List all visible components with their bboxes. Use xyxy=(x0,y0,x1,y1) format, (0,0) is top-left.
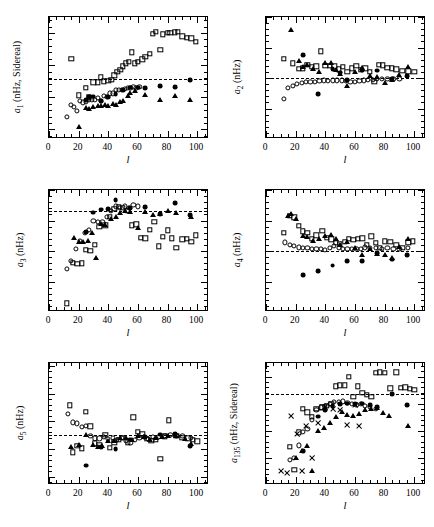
panel-a13s-point-cross xyxy=(330,406,336,412)
panel-a1-point-open-circle xyxy=(64,115,69,120)
panel-a2-point-filled-triangle xyxy=(316,69,322,74)
panel-a2-point-filled-triangle xyxy=(344,83,350,88)
panel-a2-y-axis-subscript: 2 xyxy=(236,86,245,90)
panel-a2-point-filled-triangle xyxy=(352,69,358,74)
panel-a13s-point-cross xyxy=(322,404,328,410)
panel-a3-point-open-square xyxy=(169,235,174,240)
panel-a13s-point-open-square xyxy=(355,384,360,389)
panel-a1-xtick-label: 0 xyxy=(46,142,51,152)
panel-a5-xtick-label: 80 xyxy=(162,488,172,498)
panel-a13s-point-cross xyxy=(352,402,358,408)
panel-a5-point-open-circle xyxy=(66,411,71,416)
panel-a3-point-open-square xyxy=(79,260,84,265)
panel-a13s-y-axis-symbol: a xyxy=(228,458,239,463)
panel-a4-point-filled-circle xyxy=(301,272,306,277)
panel-a2-point-filled-circle xyxy=(375,68,380,73)
panel-a13s-point-cross xyxy=(337,407,343,413)
panel-a2-y-axis-unit: (nHz) xyxy=(231,60,242,83)
panel-a3-y-axis-title: a3 (nHz) xyxy=(14,189,28,311)
panel-a2-point-filled-circle xyxy=(301,52,306,57)
panel-a13s-y-axis-title: a135 (nHz, Sidereal) xyxy=(228,362,242,484)
panel-a5-x-axis-title: l xyxy=(127,500,130,511)
panel-a2-point-filled-triangle xyxy=(382,80,388,85)
panel-a13s-point-filled-triangle xyxy=(299,448,305,453)
panel-a13s-point-cross xyxy=(309,455,315,461)
panel-a4-x-axis-title: l xyxy=(344,327,347,338)
panel-a3-x-axis-title: l xyxy=(127,327,130,338)
panel-a13s-point-filled-triangle xyxy=(386,413,392,418)
panel-a13s-point-filled-triangle xyxy=(374,405,380,410)
panel-a13s-x-axis-title: l xyxy=(344,500,347,511)
panel-a4-point-filled-triangle xyxy=(374,251,380,256)
panel-a2-y-axis-symbol: a xyxy=(231,89,242,94)
panel-a4-point-open-square xyxy=(360,235,365,240)
panel-a3-xtick-label: 0 xyxy=(46,315,51,325)
panel-a4-xtick-label: 60 xyxy=(349,315,359,325)
panel-a1-point-open-square xyxy=(153,29,158,34)
panel-a13s-point-open-square xyxy=(287,444,292,449)
panel-a1-point-open-square xyxy=(126,59,131,64)
panel-a3-xtick-label: 20 xyxy=(73,315,83,325)
panel-a3-point-open-square xyxy=(165,228,170,233)
panel-a13s-point-filled-triangle xyxy=(327,420,333,425)
panel-a13s-point-cross xyxy=(299,468,305,474)
panel-a1-point-open-circle xyxy=(75,108,80,113)
panel-a3-point-filled-triangle xyxy=(102,222,108,227)
panel-a3-point-filled-triangle xyxy=(150,212,156,217)
panel-a3-plot-area xyxy=(48,189,208,311)
panel-a3-point-filled-triangle xyxy=(142,209,148,214)
panel-a4-point-open-square xyxy=(388,239,393,244)
panel-a2-point-filled-triangle xyxy=(296,58,302,63)
panel-a4-xtick-label: 20 xyxy=(290,315,300,325)
panel-a13s-plot-area xyxy=(265,362,425,484)
panel-a5-point-open-square xyxy=(88,424,93,429)
panel-a13s-point-cross xyxy=(356,423,362,429)
panel-a2-point-filled-triangle xyxy=(405,64,411,69)
panel-a1-point-filled-triangle xyxy=(132,88,138,93)
panel-a1-point-filled-circle xyxy=(91,94,96,99)
panel-a1-point-filled-triangle xyxy=(120,98,126,103)
panel-a5-xtick-label: 100 xyxy=(189,488,203,498)
panel-a4-point-filled-triangle xyxy=(405,236,411,241)
panel-a1-point-open-square xyxy=(193,39,198,44)
panel-a1-xtick-label: 100 xyxy=(189,142,203,152)
panel-a2-xtick-label: 60 xyxy=(349,142,359,152)
panel-a2-xtick-label: 0 xyxy=(263,142,268,152)
panel-a3-point-filled-triangle xyxy=(165,208,171,213)
panel-a4-point-filled-triangle xyxy=(367,246,373,251)
panel-a3-point-filled-circle xyxy=(173,201,178,206)
panel-a5-plot-area xyxy=(48,362,208,484)
panel-a1-point-filled-triangle xyxy=(157,97,163,102)
panel-a1-xtick-label: 60 xyxy=(132,142,142,152)
panel-a4-point-filled-circle xyxy=(315,269,320,274)
panel-a13s-point-open-circle xyxy=(309,417,314,422)
panel-a13s-xtick-label: 20 xyxy=(290,488,300,498)
panel-a4-plot-area xyxy=(265,189,425,311)
panel-a3-point-open-square xyxy=(147,227,152,232)
panel-a1-reference-line xyxy=(49,79,207,80)
panel-a3-y-axis-subscript: 3 xyxy=(19,259,28,263)
panel-a3-point-filled-triangle xyxy=(85,238,91,243)
panel-a2-xtick-label: 100 xyxy=(406,142,420,152)
panel-a1-y-axis-symbol: a xyxy=(11,108,22,113)
panel-a5-point-open-square xyxy=(70,450,75,455)
panel-a3-point-open-circle xyxy=(64,266,69,271)
panel-a1-point-open-square xyxy=(157,47,162,52)
panel-a13s-point-filled-circle xyxy=(345,401,350,406)
panel-a5-y-axis-symbol: a xyxy=(14,435,25,440)
panel-a3-point-filled-triangle xyxy=(157,211,163,216)
panel-a1-point-open-square xyxy=(95,80,100,85)
panel-a3-point-open-circle xyxy=(135,204,140,209)
panel-a2-plot-area xyxy=(265,16,425,138)
panel-a3-y-axis-symbol: a xyxy=(14,262,25,267)
panel-a4-xtick-label: 80 xyxy=(379,315,389,325)
panel-a5-xtick-label: 60 xyxy=(132,488,142,498)
panel-a13s-point-filled-circle xyxy=(404,402,409,407)
panel-a2-point-filled-triangle xyxy=(288,27,294,32)
panel-a3-point-open-square xyxy=(193,232,198,237)
panel-a2-point-open-square xyxy=(290,61,295,66)
panel-a13s-point-cross xyxy=(344,422,350,428)
panel-a3-point-filled-circle xyxy=(113,198,118,203)
panel-a13s-point-filled-triangle xyxy=(309,468,315,473)
panel-a5-xtick-label: 40 xyxy=(103,488,113,498)
